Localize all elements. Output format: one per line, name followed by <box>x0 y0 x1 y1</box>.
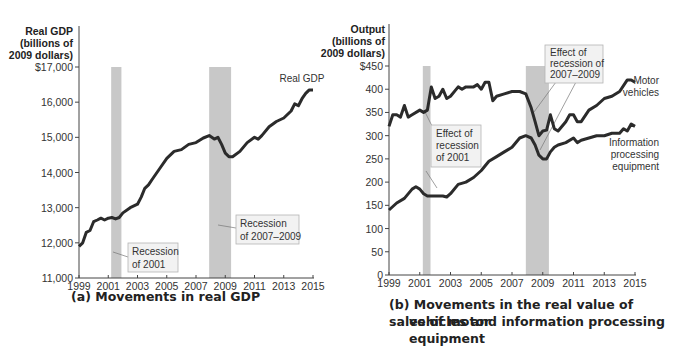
y-tick-label: 400 <box>365 83 383 95</box>
y-axis-title-line2: (billions of <box>332 35 386 47</box>
y-ticks: 050100150200250300350400$450 <box>360 60 389 281</box>
y-tick-label: 100 <box>365 223 383 235</box>
y-tick-label: 250 <box>365 153 383 165</box>
y-tick-label: 350 <box>365 106 383 118</box>
note-2008-line3: 2007–2009 <box>550 69 600 80</box>
recession-band <box>526 66 549 275</box>
note-2001-line1: Recession <box>132 246 179 257</box>
y-tick-label: 16,000 <box>41 96 73 108</box>
note-2008-line1: Effect of <box>550 47 587 58</box>
y-tick-label: 300 <box>365 130 383 142</box>
recession-band <box>111 67 121 278</box>
note-2001-line2: of 2001 <box>132 259 166 270</box>
x-tick-label: 2013 <box>272 280 296 292</box>
y-axis-title-line3: 2009 dollars) <box>9 49 73 61</box>
caption-a: (a) Movements in real GDP <box>71 288 260 305</box>
y-axis-title-line2: (billions of <box>20 37 74 49</box>
panel-a: Real GDP (billions of 2009 dollars) 11,0… <box>9 25 325 292</box>
note-2008-line1: Recession <box>240 218 287 229</box>
y-tick-label: 150 <box>365 199 383 211</box>
y-tick-label: 15,000 <box>41 131 73 143</box>
x-tick-label: 2007 <box>500 277 524 289</box>
x-tick-label: 2003 <box>439 277 463 289</box>
caption-b-line2: vehicles and information processing equi… <box>409 313 673 347</box>
note-2001-line2: recession <box>436 140 479 151</box>
info-equipment-label-line1: Information <box>609 137 659 148</box>
note-2008-line2: of 2007–2009 <box>240 231 302 242</box>
y-tick-label: 50 <box>371 246 383 258</box>
y-axis-title-line1: Output <box>351 23 386 35</box>
y-tick-label: 14,000 <box>41 167 73 179</box>
y-tick-label: 13,000 <box>41 202 73 214</box>
y-tick-label: 200 <box>365 176 383 188</box>
x-tick-label: 2001 <box>408 277 432 289</box>
info-equipment-label-line2: processing <box>611 149 659 160</box>
x-tick-label: 2013 <box>593 277 617 289</box>
x-tick-label: 2015 <box>623 277 647 289</box>
motor-vehicles-label-line2: vehicles <box>623 87 659 98</box>
y-ticks: 11,00012,00013,00014,00015,00016,000$17,… <box>35 61 79 284</box>
motor-vehicles-label-line1: Motor <box>633 75 659 86</box>
note-2001-line3: of 2001 <box>436 152 470 163</box>
note-2008-line2: recession of <box>550 58 604 69</box>
y-axis-title-line3: 2009 dollars) <box>321 47 385 59</box>
real-gdp-label: Real GDP <box>279 73 324 84</box>
y-axis-title-line1: Real GDP <box>25 25 73 37</box>
x-tick-label: 2005 <box>470 277 494 289</box>
recession-band <box>209 67 231 278</box>
y-tick-label: $450 <box>360 60 384 72</box>
note-2001-line1: Effect of <box>436 128 473 139</box>
y-tick-label: $17,000 <box>35 61 73 73</box>
x-tick-label: 2011 <box>562 277 585 289</box>
panel-b: Output (billions of 2009 dollars) 050100… <box>321 23 660 289</box>
recession-bands <box>423 66 549 275</box>
y-tick-label: 12,000 <box>41 237 73 249</box>
x-tick-label: 2015 <box>301 280 325 292</box>
x-tick-label: 2009 <box>531 277 555 289</box>
x-tick-label: 1999 <box>377 277 401 289</box>
info-equipment-label-line3: equipment <box>612 161 659 172</box>
